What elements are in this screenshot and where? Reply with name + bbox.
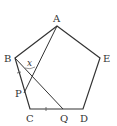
label-b: B (4, 53, 11, 64)
label-q: Q (60, 113, 68, 124)
label-a: A (52, 13, 61, 24)
label-e: E (103, 53, 110, 64)
label-p: P (15, 88, 22, 99)
pentagon-diagram: A B C D E P Q x (0, 0, 117, 126)
tick-mark-bp (17, 72, 21, 73)
label-d: D (80, 113, 88, 124)
label-c: C (26, 113, 34, 124)
angle-label-x: x (27, 58, 32, 68)
